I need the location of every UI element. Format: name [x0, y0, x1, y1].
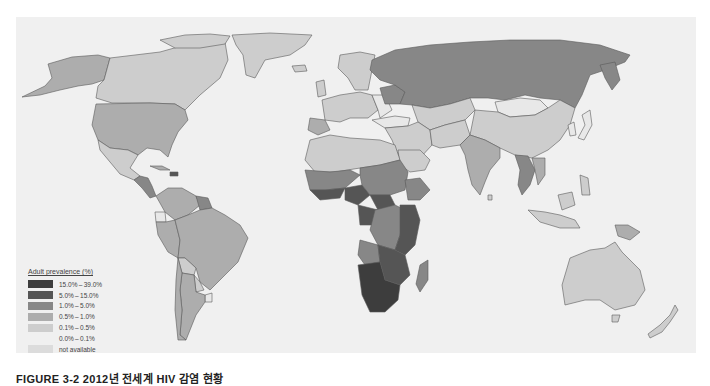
legend-swatch — [28, 302, 53, 310]
region-indonesia — [528, 210, 580, 228]
legend-item: 0.0% – 0.1% — [28, 333, 172, 344]
region-ethiopia-horn — [405, 178, 430, 200]
region-haiti — [170, 172, 178, 176]
region-papua-new-guinea — [615, 225, 640, 240]
legend-label: 5.0% – 15.0% — [59, 292, 98, 299]
map-legend: Adult prevalence (%) 15.0% – 39.0% 5.0% … — [12, 268, 172, 355]
legend-swatch — [28, 324, 53, 332]
legend-label: 15.0% – 39.0% — [59, 281, 102, 288]
region-myanmar-thailand — [515, 155, 535, 195]
legend-swatch — [28, 291, 53, 299]
region-philippines — [580, 175, 590, 195]
region-russia — [370, 40, 630, 108]
region-uruguay — [205, 293, 212, 302]
region-borneo — [558, 192, 575, 210]
region-west-africa-coast — [310, 188, 345, 200]
region-russia-far-east — [600, 62, 620, 90]
legend-item: 1.0% – 5.0% — [28, 301, 172, 312]
region-new-zealand — [648, 305, 678, 338]
legend-item: 5.0% – 15.0% — [28, 290, 172, 301]
region-uk — [316, 80, 326, 97]
region-alaska — [22, 55, 110, 97]
region-scandinavia — [338, 52, 375, 90]
region-guyanas — [196, 196, 212, 210]
region-iceland — [292, 65, 307, 72]
region-korea — [568, 122, 576, 136]
region-iberia — [308, 118, 330, 135]
figure-caption: FIGURE 3-2 2012년 전세계 HIV 감염 현황 — [16, 370, 224, 386]
legend-item: not available — [28, 344, 172, 355]
legend-swatch — [28, 345, 53, 353]
legend-swatch — [28, 280, 53, 288]
legend-label: not available — [59, 346, 96, 353]
legend-label: 0.1% – 0.5% — [59, 324, 95, 331]
legend-label: 0.0% – 0.1% — [59, 335, 95, 342]
region-japan — [578, 110, 592, 140]
legend-swatch — [28, 334, 53, 342]
region-western-europe — [322, 92, 378, 122]
region-madagascar — [416, 260, 428, 292]
region-angola — [358, 240, 380, 265]
region-caribbean — [150, 166, 170, 170]
legend-label: 0.5% – 1.0% — [59, 313, 95, 320]
legend-label: 1.0% – 5.0% — [59, 302, 95, 309]
legend-item: 15.0% – 39.0% — [28, 279, 172, 290]
legend-item: 0.5% – 1.0% — [28, 311, 172, 322]
legend-item: 0.1% – 0.5% — [28, 322, 172, 333]
region-central-america — [134, 176, 156, 198]
region-sri-lanka — [488, 195, 492, 200]
region-tasmania — [612, 315, 620, 322]
region-australia — [562, 242, 645, 310]
region-ecuador — [155, 212, 166, 222]
legend-swatch — [28, 313, 53, 321]
legend-title: Adult prevalence (%) — [28, 268, 172, 275]
region-canada — [96, 40, 228, 110]
